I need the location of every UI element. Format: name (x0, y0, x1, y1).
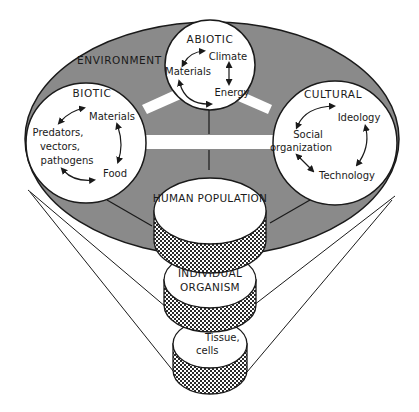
tissue-label-line1: Tissue, (204, 332, 240, 343)
cultural-technology: Technology (318, 170, 375, 181)
biotic-vectors: vectors, (40, 141, 80, 152)
abiotic-energy: Energy (214, 87, 249, 98)
biotic-predators: Predators, (33, 127, 84, 138)
biotic-circle: BIOTIC Materials Predators, vectors, pat… (26, 83, 146, 203)
abiotic-materials: Materials (165, 66, 211, 77)
biotic-pathogens: pathogens (41, 155, 94, 166)
cultural-ideology: Ideology (338, 112, 381, 123)
cultural-title: CULTURAL (304, 88, 362, 100)
human-population-label: HUMAN POPULATION (153, 192, 268, 204)
biotic-materials: Materials (89, 111, 135, 122)
human-population-cylinder: HUMAN POPULATION (153, 178, 268, 273)
ecology-diagram: ABIOTIC Climate Materials Energy BIOTIC … (0, 0, 419, 412)
tissue-label-line2: cells (196, 345, 218, 356)
abiotic-title: ABIOTIC (187, 33, 234, 45)
cultural-organization: organization (270, 142, 332, 153)
environment-label: ENVIRONMENT (77, 54, 162, 66)
abiotic-circle: ABIOTIC Climate Materials Energy (165, 20, 255, 110)
biotic-food: Food (103, 168, 127, 179)
cultural-social: Social (293, 129, 323, 140)
individual-label-line2: ORGANISM (180, 281, 240, 293)
abiotic-climate: Climate (209, 51, 247, 62)
biotic-title: BIOTIC (72, 87, 111, 99)
